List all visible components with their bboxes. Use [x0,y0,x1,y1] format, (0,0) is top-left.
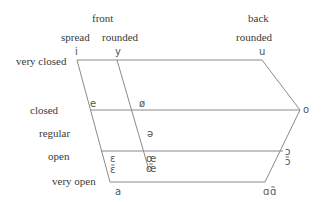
back-header: back [248,12,269,24]
vowel-open-o-nasal: ɔ̃ [285,157,291,167]
vowel-e: e [90,99,96,109]
rounded-front-line [117,60,149,170]
vowel-o-slash: ø [139,99,145,109]
row-label-very-open: very open [52,175,96,187]
vowel-o: o [303,105,309,115]
vowel-schwa: ə [147,129,153,139]
vowel-chart-lines [0,0,324,202]
vowel-epsilon: ɛ [110,154,115,164]
back-rounded-header: rounded [236,31,272,43]
vowel-y: y [115,47,121,57]
front-edge-line [77,60,110,182]
vowel-alpha: ɑ [263,187,269,197]
front-header: front [92,12,113,24]
row-label-very-closed: very closed [16,55,66,67]
vowel-oe-nasal: œ̃ [146,164,156,174]
vowel-epsilon-nasal: ɛ̃ [110,165,115,175]
vowel-alpha-nasal: ɑ̃ [270,187,276,197]
row-label-open: open [48,150,69,162]
front-rounded-header: rounded [102,31,138,43]
vowel-u: u [259,47,265,57]
row-label-closed: closed [30,104,58,116]
back-edge-line [262,60,300,182]
front-spread-header: spread [61,31,90,43]
vowel-i: i [75,47,78,57]
row-label-regular: regular [39,127,70,139]
vowel-a: a [115,187,121,197]
